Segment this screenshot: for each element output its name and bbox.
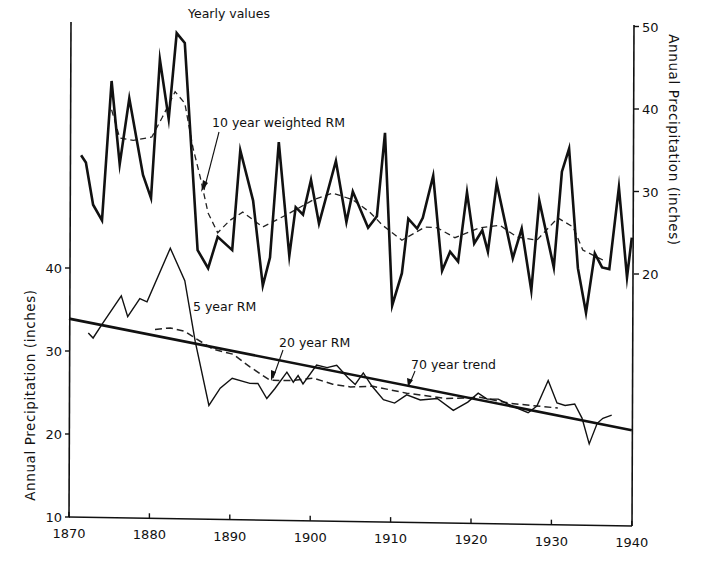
left-axis-title: Annual Precipitation (inches) (22, 289, 38, 500)
x-axis (69, 517, 632, 526)
label-yearly-values: Yearly values (187, 6, 270, 21)
right-tick-label: 30 (642, 185, 659, 200)
x-tick-label: 1940 (615, 535, 648, 550)
series-10-year-weighted-rm (112, 92, 603, 260)
series-yearly-values (81, 33, 632, 313)
left-tick-label: 20 (45, 427, 62, 442)
x-tick-label: 1900 (294, 530, 327, 545)
arrow-10-year-rm-icon (204, 132, 219, 190)
series-group (69, 33, 632, 444)
precipitation-chart: 18701880189019001910192019301940 1020304… (0, 0, 704, 571)
x-tick-label: 1930 (535, 534, 568, 549)
right-tick-label: 50 (642, 20, 659, 35)
right-y-axis (632, 25, 634, 526)
x-tick-label: 1910 (374, 531, 407, 546)
left-tick-label: 10 (45, 510, 62, 525)
label-70-year-trend: 70 year trend (411, 357, 496, 372)
left-axis-ticks: 10203040 (45, 261, 70, 525)
left-tick-label: 40 (45, 261, 62, 276)
arrowhead-10-year-rm-icon (201, 180, 208, 192)
left-y-axis (69, 22, 71, 517)
series-70-year-trend (69, 319, 632, 431)
left-tick-label: 30 (45, 344, 62, 359)
label-10-year-weighted-rm: 10 year weighted RM (212, 115, 345, 130)
right-tick-label: 40 (642, 102, 659, 117)
x-tick-label: 1870 (52, 526, 85, 541)
x-tick-label: 1920 (454, 532, 487, 547)
x-tick-label: 1880 (133, 527, 166, 542)
right-tick-label: 20 (642, 267, 659, 282)
axes (69, 22, 634, 526)
right-axis-ticks: 20304050 (634, 20, 659, 283)
right-axis-title: Annual Precipitation (inches) (666, 34, 682, 245)
label-5-year-rm: 5 year RM (193, 299, 256, 314)
x-tick-label: 1890 (213, 529, 246, 544)
label-20-year-rm: 20 year RM (279, 335, 350, 350)
